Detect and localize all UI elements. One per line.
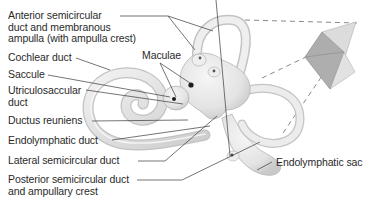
label-cochlear-duct: Cochlear duct — [8, 52, 71, 64]
label-line: Utriculosaccular — [8, 85, 81, 97]
label-ductus-reuniens: Ductus reuniens — [8, 115, 82, 127]
inner-ear-diagram: Anterior semicircular duct and membranou… — [0, 0, 370, 200]
label-saccule: Saccule — [8, 69, 45, 81]
label-lateral-semicircular-duct: Lateral semicircular duct — [8, 155, 119, 167]
label-utriculosaccular-duct: Utriculosaccular duct — [8, 85, 81, 108]
label-maculae: Maculae — [142, 50, 181, 62]
label-line: Posterior semicircular duct — [8, 174, 129, 186]
label-posterior-semicircular-duct: Posterior semicircular duct and ampullar… — [8, 174, 129, 197]
label-line: Anterior semicircular — [8, 10, 136, 22]
label-anterior-semicircular-duct: Anterior semicircular duct and membranou… — [8, 10, 136, 45]
label-endolymphatic-duct: Endolymphatic duct — [8, 135, 98, 147]
orthogonal-planes-icon — [305, 22, 356, 89]
label-line: and ampullary crest — [8, 186, 129, 198]
label-line: ampulla (with ampulla crest) — [8, 33, 136, 45]
label-endolymphatic-sac: Endolymphatic sac — [276, 157, 362, 169]
label-line: duct — [8, 97, 81, 109]
